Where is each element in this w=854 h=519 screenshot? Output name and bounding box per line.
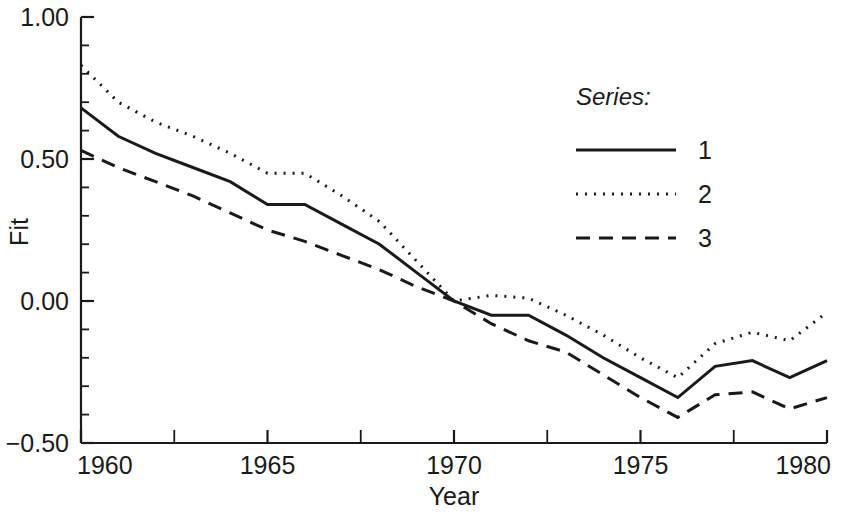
data-series-group [81,65,827,417]
x-axis-title: Year [429,482,480,510]
line-chart-canvas: −0.500.000.501.00 19601965197019751980 Y… [0,0,854,519]
y-tick-label: 0.00 [20,287,69,315]
legend-label-3: 3 [698,224,712,252]
y-axis-minor-ticks [81,45,89,414]
y-tick-label: 0.50 [20,145,69,173]
x-tick-label: 1970 [426,451,482,479]
x-axis-major-ticks [81,430,827,443]
x-tick-label: 1965 [240,451,296,479]
x-axis-tick-labels: 19601965197019751980 [77,451,831,479]
legend-label-1: 1 [698,136,712,164]
y-tick-label: −0.50 [6,429,69,457]
y-axis-major-ticks [81,17,94,443]
legend: Series: 123 [576,83,712,252]
x-tick-label: 1980 [775,451,831,479]
chart-figure: −0.500.000.501.00 19601965197019751980 Y… [0,0,854,519]
x-tick-label: 1960 [77,451,133,479]
series-line-1 [81,108,827,398]
legend-label-2: 2 [698,180,712,208]
y-tick-label: 1.00 [20,3,69,31]
axes-spines [81,17,827,443]
series-line-3 [81,150,827,417]
x-tick-label: 1975 [613,451,669,479]
y-axis-title: Fit [5,218,33,246]
legend-entries: 123 [576,136,712,252]
series-line-2 [81,65,827,377]
legend-title: Series: [576,83,651,110]
